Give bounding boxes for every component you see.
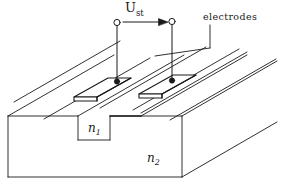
voltage-subscript: st [136, 8, 144, 18]
substrate-right-face [182, 61, 277, 177]
waveguide-modulator-figure: Ust electrodes n1 n2 [0, 0, 282, 187]
terminal-right[interactable] [169, 18, 175, 24]
voltage-direction-arrow [123, 19, 168, 26]
n1-subscript: 1 [96, 128, 101, 137]
n1-symbol: n [88, 121, 96, 135]
n2-symbol: n [147, 151, 155, 165]
contact-left [114, 79, 119, 84]
voltage-label: Ust [125, 1, 144, 17]
electrode-plate-left-shape [74, 78, 131, 101]
surface-groove-lines [14, 41, 276, 120]
voltage-symbol: U [125, 0, 136, 15]
terminal-left[interactable] [114, 19, 120, 25]
electrodes-leader-line [155, 25, 210, 56]
electrodes-label: electrodes [203, 12, 257, 22]
refractive-index-guide-label: n1 [88, 122, 101, 137]
contact-right [169, 78, 174, 83]
refractive-index-substrate-label: n2 [147, 152, 160, 167]
figure-drawing [0, 0, 282, 187]
n2-subscript: 2 [155, 158, 160, 167]
